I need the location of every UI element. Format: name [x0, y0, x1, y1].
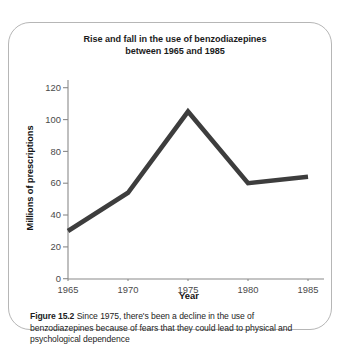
y-tick-marks [63, 88, 68, 279]
figure-caption-label: Figure 15.2 [30, 311, 74, 321]
x-tick-label-1970: 1970 [106, 284, 150, 295]
x-tick-label-1975: 1975 [166, 284, 210, 295]
data-series-line [68, 112, 308, 231]
x-tick-label-1980: 1980 [226, 284, 270, 295]
figure-card: Rise and fall in the use of benzodiazepi… [8, 22, 332, 330]
chart-region: Rise and fall in the use of benzodiazepi… [9, 23, 333, 281]
x-tick-label-1965: 1965 [46, 284, 90, 295]
figure-caption: Figure 15.2 Since 1975, there's been a d… [30, 311, 318, 346]
line-chart-plot [9, 23, 333, 281]
x-tick-label-1985: 1985 [286, 284, 330, 295]
